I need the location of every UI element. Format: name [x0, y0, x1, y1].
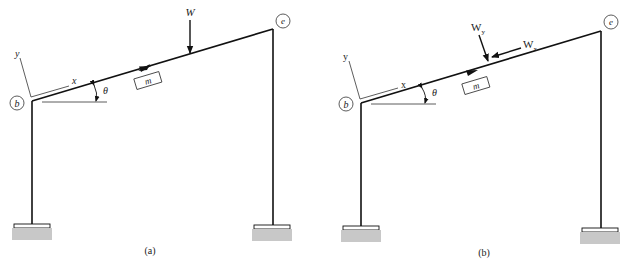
load-wy-arrow	[479, 35, 488, 61]
panel-a: b e x y θ m W (a)	[10, 6, 292, 257]
x-axis-label: x	[401, 79, 406, 90]
local-y-axis	[349, 61, 360, 99]
load-wy-label: Wy	[471, 21, 485, 36]
local-y-axis	[20, 58, 31, 97]
theta-arc	[94, 85, 97, 101]
right-support-ground	[580, 232, 620, 244]
left-support-ground	[341, 230, 381, 242]
right-support-plate	[254, 225, 290, 229]
node-e-label: e	[281, 16, 285, 26]
theta-label: θ	[432, 87, 437, 98]
member-direction-arrowhead	[139, 66, 151, 72]
member-direction-arrowhead	[466, 70, 478, 76]
x-axis-label: x	[71, 75, 77, 86]
node-b-label: b	[15, 98, 20, 109]
theta-arc	[422, 88, 426, 103]
member-label-box: m	[462, 77, 490, 95]
y-axis-label: y	[14, 48, 20, 59]
caption-a: (a)	[144, 245, 155, 257]
left-support-plate	[343, 226, 379, 230]
left-support-ground	[12, 228, 52, 240]
y-axis-label: y	[343, 51, 348, 62]
theta-label: θ	[103, 85, 108, 96]
panel-b: b e x y θ m Wy Wx (b)	[339, 15, 620, 259]
frame-diagram: b e x y θ m W (a) b	[0, 0, 630, 267]
right-support-ground	[252, 229, 292, 241]
left-support-plate	[14, 224, 50, 228]
load-w-label: W	[185, 6, 195, 18]
rafter	[32, 29, 273, 101]
load-wx-label: Wx	[523, 38, 537, 53]
member-label-box: m	[134, 72, 162, 90]
right-support-plate	[582, 228, 618, 232]
node-e-label: e	[609, 17, 613, 27]
caption-b: (b)	[478, 247, 490, 259]
node-b-label: b	[344, 99, 349, 110]
